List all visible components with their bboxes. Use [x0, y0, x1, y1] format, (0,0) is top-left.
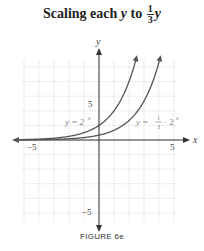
- label-original-exp: x: [87, 115, 91, 121]
- y-axis-down-arrow-icon: [96, 225, 102, 232]
- y-tick-5: 5: [88, 99, 93, 109]
- x-tick-5: 5: [170, 142, 175, 152]
- y-tick-neg5: −5: [82, 207, 92, 217]
- figure-caption: FIGURE 6e: [0, 232, 204, 241]
- x-axis-arrow-icon: [183, 137, 190, 143]
- label-scaled-frac-num: 1: [157, 115, 160, 121]
- plot-area: −5 5 5 −5 x y y = 2 x y = 1 3 · 2 x: [0, 0, 204, 251]
- y-axis-label: y: [95, 36, 101, 47]
- label-third-2-pow-x: y = 1 3 · 2 x: [135, 115, 179, 130]
- y-axis-arrow-icon: [96, 48, 102, 55]
- curve-2-pow-x-arrow-icon: [133, 55, 139, 62]
- label-2-pow-x: y = 2 x: [64, 115, 91, 127]
- label-scaled-suffix: · 2: [164, 117, 174, 127]
- label-scaled-exp: x: [175, 115, 179, 121]
- x-axis-label: x: [192, 134, 198, 145]
- x-tick-neg5: −5: [27, 142, 37, 152]
- curves-left-arrow-icon: [12, 137, 19, 143]
- curve-third-arrow-icon: [156, 55, 162, 62]
- label-original-text: y = 2: [64, 117, 85, 127]
- label-scaled-frac-den: 3: [157, 124, 160, 130]
- label-scaled-prefix: y =: [135, 117, 148, 127]
